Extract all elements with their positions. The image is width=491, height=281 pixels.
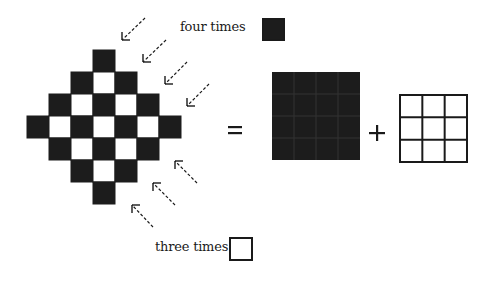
arrow-down-left-icon (165, 62, 187, 84)
three-times-label: three times (155, 239, 228, 254)
arrow-down-left-icon (187, 84, 209, 106)
diamond-cell-white (71, 94, 93, 116)
white-swatch (229, 237, 253, 261)
diamond-cell-black (93, 94, 115, 116)
diamond-cell-black (115, 72, 137, 94)
equals-sign (228, 126, 242, 134)
diamond-cell-black (159, 116, 181, 138)
diamond-cell-white (93, 116, 115, 138)
arrow-down-left-icon (122, 18, 145, 40)
arrow-down-left-icon (143, 40, 166, 62)
diamond-cell-black (137, 138, 159, 160)
diamond-cell-black (115, 116, 137, 138)
diamond-cell-black (49, 138, 71, 160)
diamond-cell-black (49, 94, 71, 116)
arrow-up-left-icon (175, 161, 197, 183)
diamond-cell-black (93, 50, 115, 72)
diamond-cell-white (93, 72, 115, 94)
diamond-cell-black (115, 160, 137, 182)
diamond-cell-black (71, 116, 93, 138)
diamond-cell-white (71, 138, 93, 160)
plus-sign (369, 125, 385, 141)
checkered-diamond (27, 50, 181, 204)
diamond-cell-black (71, 72, 93, 94)
diamond-cell-white (93, 160, 115, 182)
diamond-cell-white (49, 116, 71, 138)
diamond-cell-black (93, 138, 115, 160)
diamond-cell-white (115, 94, 137, 116)
arrow-up-left-icon (153, 183, 175, 205)
black-swatch (262, 18, 285, 41)
diamond-cell-white (137, 116, 159, 138)
four-times-label: four times (180, 19, 245, 34)
white-3x3-square (400, 95, 467, 162)
black-4x4-square (272, 72, 360, 160)
diamond-cell-white (115, 138, 137, 160)
diamond-cell-black (71, 160, 93, 182)
diamond-cell-black (27, 116, 49, 138)
diamond-cell-black (93, 182, 115, 204)
diamond-cell-black (137, 94, 159, 116)
arrow-up-left-icon (132, 205, 153, 227)
